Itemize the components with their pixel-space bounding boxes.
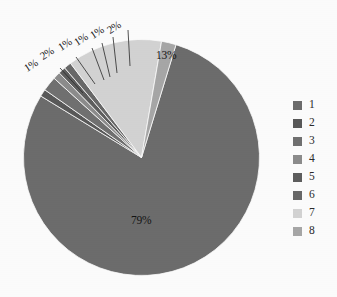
legend-swatch-icon-7: [293, 209, 302, 218]
legend-label-1: 1: [309, 99, 315, 111]
legend-label-3: 3: [309, 135, 315, 147]
legend-label-5: 5: [309, 171, 315, 183]
legend-item-4[interactable]: 4: [293, 150, 337, 168]
legend-item-6[interactable]: 6: [293, 186, 337, 204]
legend-item-7[interactable]: 7: [293, 204, 337, 222]
pie-slices-group: [23, 39, 259, 275]
legend-swatch-icon-4: [293, 155, 302, 164]
legend-item-3[interactable]: 3: [293, 132, 337, 150]
slice-percent-label-13: 13%: [156, 49, 176, 61]
legend-item-8[interactable]: 8: [293, 222, 337, 240]
legend-swatch-icon-5: [293, 173, 302, 182]
slice-percent-label-79: 79%: [131, 214, 151, 226]
legend-item-2[interactable]: 2: [293, 114, 337, 132]
legend-item-1[interactable]: 1: [293, 96, 337, 114]
legend-item-5[interactable]: 5: [293, 168, 337, 186]
legend-swatch-icon-6: [293, 191, 302, 200]
legend-label-4: 4: [309, 153, 315, 165]
legend-swatch-icon-1: [293, 101, 302, 110]
legend-label-7: 7: [309, 207, 315, 219]
legend-label-2: 2: [309, 117, 315, 129]
pie-chart-figure: 1%2%1%1%1%2% 13%79% 12345678: [0, 0, 337, 297]
legend-swatch-icon-3: [293, 137, 302, 146]
chart-legend: 12345678: [293, 96, 337, 240]
legend-swatch-icon-8: [293, 227, 302, 236]
legend-label-8: 8: [309, 225, 315, 237]
legend-swatch-icon-2: [293, 119, 302, 128]
pie-chart-canvas: [0, 0, 337, 297]
legend-label-6: 6: [309, 189, 315, 201]
